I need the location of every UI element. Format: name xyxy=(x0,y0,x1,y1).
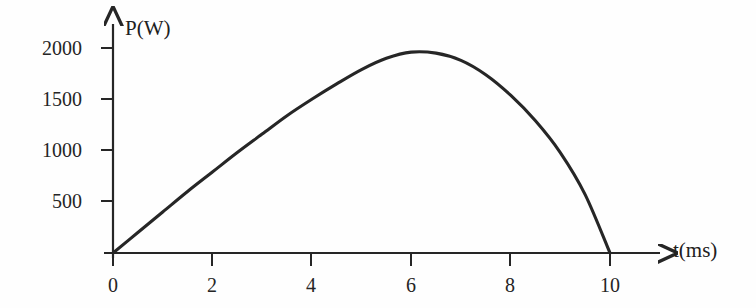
x-axis-title: t(ms) xyxy=(673,240,717,261)
y-axis-ticks xyxy=(101,48,113,201)
x-tick-label-10: 10 xyxy=(580,275,640,295)
y-tick-label-1500: 1500 xyxy=(20,89,82,109)
y-axis-title: P(W) xyxy=(125,18,171,39)
x-tick-label-8: 8 xyxy=(480,275,540,295)
x-tick-label-0: 0 xyxy=(83,275,143,295)
x-tick-label-2: 2 xyxy=(182,275,242,295)
y-tick-label-2000: 2000 xyxy=(20,38,82,58)
chart-figure: 2000 1500 1000 500 0 2 4 6 8 10 P(W) t(m… xyxy=(0,0,756,308)
x-axis-ticks xyxy=(113,253,610,266)
chart-plot-area xyxy=(0,0,756,308)
y-tick-label-500: 500 xyxy=(20,191,82,211)
y-tick-label-1000: 1000 xyxy=(20,140,82,160)
x-tick-label-4: 4 xyxy=(281,275,341,295)
x-tick-label-6: 6 xyxy=(381,275,441,295)
power-curve xyxy=(113,52,610,253)
